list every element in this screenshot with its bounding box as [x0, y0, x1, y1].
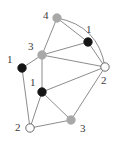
graph-node[interactable]	[101, 63, 109, 71]
graph-figure: 41312132	[0, 0, 115, 143]
graph-edge	[71, 67, 105, 120]
graph-node[interactable]	[38, 88, 46, 96]
graph-node-label: 3	[80, 123, 86, 134]
graph-edge	[42, 92, 71, 120]
graph-node-label: 4	[43, 10, 49, 21]
graph-node-label: 2	[15, 122, 21, 133]
graph-node-label: 1	[86, 24, 92, 35]
graph-edge	[42, 42, 88, 55]
graph-node-label: 3	[28, 41, 34, 52]
graph-edge	[30, 120, 71, 128]
graph-node-label: 1	[30, 77, 36, 88]
graph-node[interactable]	[38, 51, 46, 59]
graph-edge	[30, 92, 42, 128]
graph-node[interactable]	[53, 14, 61, 22]
graph-node-label: 1	[7, 54, 13, 65]
graph-node[interactable]	[84, 38, 92, 46]
graph-edge	[57, 18, 105, 67]
graph-edge	[42, 18, 57, 55]
graph-node-label: 2	[101, 75, 107, 86]
graph-node[interactable]	[67, 116, 75, 124]
graph-node[interactable]	[18, 64, 26, 72]
graph-edge	[42, 55, 105, 67]
graph-edge	[42, 67, 105, 92]
graph-node[interactable]	[26, 124, 34, 132]
graph-edge	[57, 18, 88, 42]
graph-edge	[22, 68, 30, 128]
